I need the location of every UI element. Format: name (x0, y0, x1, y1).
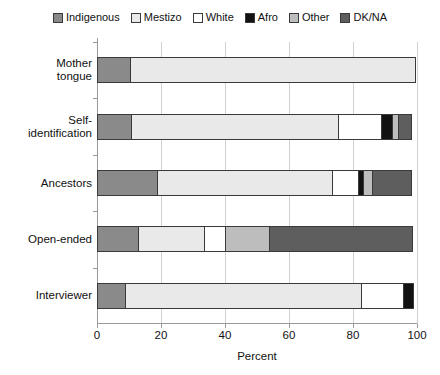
legend-label: Mestizo (144, 12, 182, 23)
stacked-bar-chart: IndigenousMestizoWhiteAfroOtherDK/NA Mot… (0, 0, 440, 375)
legend-label: Indigenous (66, 12, 120, 23)
bar-segment-white[interactable] (361, 283, 404, 309)
x-tick-label: 60 (283, 329, 296, 342)
legend-label: Other (302, 12, 330, 23)
x-tick-label: 0 (94, 329, 100, 342)
legend-item-mestizo[interactable]: Mestizo (131, 12, 182, 23)
x-axis-tick (417, 324, 418, 328)
bar-segment-white[interactable] (338, 114, 382, 140)
category-label-mother-tongue: Mothertongue (4, 57, 92, 83)
legend-label: DK/NA (353, 12, 387, 23)
x-axis-tick (161, 324, 162, 328)
x-tick-label: 100 (407, 329, 426, 342)
plot-area (97, 42, 417, 324)
bar-segment-indigenous[interactable] (97, 114, 132, 140)
legend-swatch-icon (289, 13, 299, 23)
x-axis-tick (289, 324, 290, 328)
legend-swatch-icon (245, 13, 255, 23)
category-label-line: Mother (4, 57, 92, 70)
bar-segment-other[interactable] (225, 226, 270, 252)
legend-swatch-icon (193, 13, 203, 23)
x-tick-label: 40 (219, 329, 232, 342)
x-tick-label: 20 (155, 329, 168, 342)
bar-row[interactable] (97, 57, 417, 83)
x-axis-tick (225, 324, 226, 328)
category-label-self-identification: Self-identification (4, 114, 92, 140)
bar-segment-dk-na[interactable] (372, 170, 412, 196)
x-axis-tick (353, 324, 354, 328)
category-label-interviewer: Interviewer (4, 289, 92, 302)
category-label-line: tongue (4, 70, 92, 83)
bar-segment-white[interactable] (204, 226, 226, 252)
category-label-line: Self- (4, 114, 92, 127)
category-label-open-ended: Open-ended (4, 233, 92, 246)
bar-row[interactable] (97, 283, 417, 309)
legend-swatch-icon (131, 13, 141, 23)
chart-legend: IndigenousMestizoWhiteAfroOtherDK/NA (0, 12, 440, 23)
bar-segment-indigenous[interactable] (97, 226, 139, 252)
bar-segment-mestizo[interactable] (157, 170, 333, 196)
x-axis-title: Percent (97, 350, 417, 362)
bar-segment-dk-na[interactable] (398, 114, 412, 140)
legend-swatch-icon (340, 13, 350, 23)
bar-segment-mestizo[interactable] (131, 114, 339, 140)
y-axis-tick (93, 211, 97, 212)
category-label-line: Interviewer (4, 289, 92, 302)
category-label-line: identification (4, 127, 92, 140)
bar-segment-white[interactable] (332, 170, 359, 196)
gridline (417, 42, 418, 324)
legend-label: Afro (258, 12, 278, 23)
bar-row[interactable] (97, 170, 417, 196)
bar-segment-mestizo[interactable] (130, 57, 416, 83)
bar-segment-indigenous[interactable] (97, 283, 126, 309)
bar-segment-indigenous[interactable] (97, 170, 158, 196)
bar-segment-indigenous[interactable] (97, 57, 131, 83)
x-tick-label: 80 (347, 329, 360, 342)
x-axis-tick (97, 324, 98, 328)
y-axis-tick (93, 155, 97, 156)
legend-label: White (206, 12, 234, 23)
category-label-line: Ancestors (4, 177, 92, 190)
legend-item-indigenous[interactable]: Indigenous (53, 12, 120, 23)
x-axis-tick-labels: 020406080100 (97, 329, 417, 345)
legend-item-afro[interactable]: Afro (245, 12, 278, 23)
bar-segment-dk-na[interactable] (269, 226, 413, 252)
legend-item-other[interactable]: Other (289, 12, 330, 23)
legend-item-dk-na[interactable]: DK/NA (340, 12, 387, 23)
x-axis-line (97, 323, 417, 324)
y-axis-tick (93, 42, 97, 43)
category-label-line: Open-ended (4, 233, 92, 246)
y-axis-tick (93, 268, 97, 269)
bar-segment-mestizo[interactable] (125, 283, 362, 309)
bar-segment-afro[interactable] (403, 283, 414, 309)
bar-segment-mestizo[interactable] (138, 226, 205, 252)
category-axis-labels: MothertongueSelf-identificationAncestors… (0, 42, 92, 324)
bar-row[interactable] (97, 226, 417, 252)
legend-item-white[interactable]: White (193, 12, 234, 23)
y-axis-tick (93, 98, 97, 99)
bar-row[interactable] (97, 114, 417, 140)
category-label-ancestors: Ancestors (4, 177, 92, 190)
legend-swatch-icon (53, 13, 63, 23)
